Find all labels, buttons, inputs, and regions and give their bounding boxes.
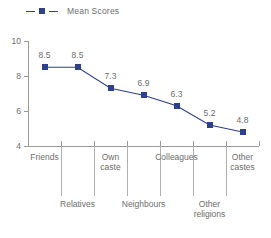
chart-legend: Mean Scores: [26, 6, 119, 16]
x-axis-divider: [94, 146, 95, 196]
data-point-label: 6.3: [171, 90, 183, 99]
y-tick-mark: [24, 111, 28, 112]
data-point-label: 7.3: [105, 72, 117, 81]
data-point-label: 6.9: [138, 79, 150, 88]
data-point-marker: [240, 129, 246, 135]
data-point-label: 4.8: [237, 116, 249, 125]
y-tick-mark: [24, 41, 28, 42]
category-label: Relatives: [60, 199, 95, 209]
legend-line-icon: [26, 11, 35, 12]
data-point-label: 8.5: [72, 51, 84, 60]
data-point-marker: [174, 103, 180, 109]
data-point-marker: [108, 85, 114, 91]
y-tick-mark: [24, 146, 28, 147]
category-label: Colleagues: [155, 152, 198, 162]
legend-line-icon: [49, 11, 58, 12]
x-axis-divider: [61, 146, 62, 196]
data-point-label: 8.5: [39, 51, 51, 60]
category-label: Other religions: [194, 199, 226, 219]
mean-scores-line-chart: Mean Scores 10864 8.58.57.36.96.35.24.8 …: [0, 0, 271, 238]
y-tick-mark: [24, 76, 28, 77]
data-point-marker: [207, 122, 213, 128]
x-tick-mark: [259, 141, 260, 146]
x-axis-divider: [127, 146, 128, 196]
category-label: Friends: [30, 152, 58, 162]
y-axis-line: [28, 41, 29, 147]
data-point-label: 5.2: [204, 109, 216, 118]
category-label: Own caste: [100, 152, 120, 172]
legend-label: Mean Scores: [67, 6, 119, 16]
y-tick-label: 8: [3, 72, 21, 81]
category-label: Other castes: [230, 152, 255, 172]
legend-square-marker-icon: [39, 8, 45, 14]
x-tick-mark: [28, 141, 29, 146]
category-label: Neighbours: [122, 199, 165, 209]
x-axis-divider: [226, 146, 227, 196]
y-tick-label: 10: [3, 37, 21, 46]
y-tick-label: 4: [3, 142, 21, 151]
y-tick-label: 6: [3, 107, 21, 116]
x-axis-line: [28, 146, 259, 147]
data-point-marker: [42, 64, 48, 70]
data-point-marker: [75, 64, 81, 70]
data-point-marker: [141, 92, 147, 98]
